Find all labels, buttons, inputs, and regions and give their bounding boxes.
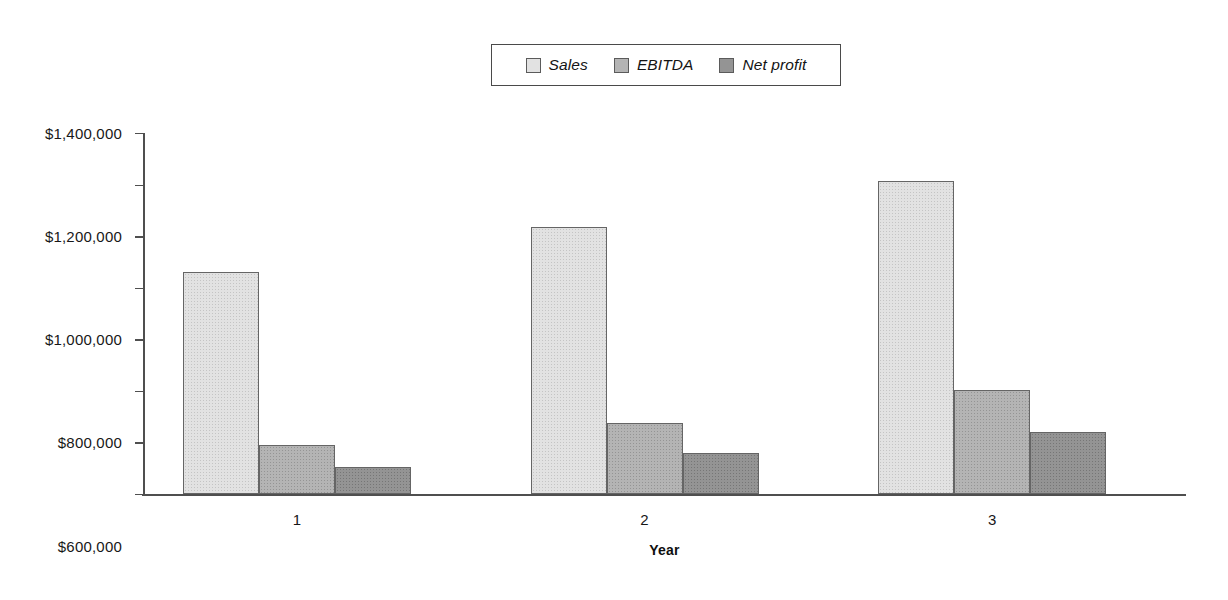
y-tick-label: $1,200,000 — [45, 228, 122, 245]
y-tick-mark: $1,400,000 — [135, 133, 143, 134]
x-tick-label: 2 — [640, 511, 648, 528]
legend-label-sales: Sales — [549, 56, 588, 74]
legend-entry-net-profit: Net profit — [719, 56, 806, 74]
y-tick-mark: $800,000 — [135, 288, 143, 289]
legend-entry-sales: Sales — [526, 56, 588, 74]
bar — [878, 181, 954, 494]
legend-swatch-sales — [526, 58, 541, 73]
x-tick-label: 3 — [988, 511, 996, 528]
y-tick-label: $800,000 — [58, 434, 122, 451]
legend-swatch-net-profit — [719, 58, 734, 73]
y-axis-line — [143, 133, 145, 494]
y-tick-label: $1,000,000 — [45, 331, 122, 348]
bar — [183, 272, 259, 494]
legend-label-net-profit: Net profit — [742, 56, 806, 74]
x-axis-title: Year — [649, 542, 679, 558]
x-tick-label: 1 — [293, 511, 301, 528]
bar — [259, 445, 335, 494]
bar — [954, 390, 1030, 494]
bar — [1030, 432, 1106, 494]
legend-entry-ebitda: EBITDA — [614, 56, 694, 74]
bar — [335, 467, 411, 494]
y-tick-label: $600,000 — [58, 537, 122, 554]
legend-swatch-ebitda — [614, 58, 629, 73]
y-tick-mark: $0 — [135, 494, 143, 495]
y-tick-mark: $1,200,000 — [135, 185, 143, 186]
x-axis-line — [142, 494, 1186, 496]
bar — [607, 423, 683, 494]
chart-legend: Sales EBITDA Net profit — [491, 44, 841, 86]
bar — [531, 227, 607, 494]
y-tick-mark: $600,000 — [135, 339, 143, 340]
y-tick-mark: $400,000 — [135, 391, 143, 392]
y-tick-label: $1,400,000 — [45, 125, 122, 142]
legend-label-ebitda: EBITDA — [637, 56, 694, 74]
bar — [683, 453, 759, 494]
y-tick-mark: $1,000,000 — [135, 236, 143, 237]
y-tick-mark: $200,000 — [135, 442, 143, 443]
plot-area: $0$200,000$400,000$600,000$800,000$1,000… — [143, 133, 1186, 494]
bar-chart: Sales EBITDA Net profit $0$200,000$400,0… — [0, 0, 1228, 600]
